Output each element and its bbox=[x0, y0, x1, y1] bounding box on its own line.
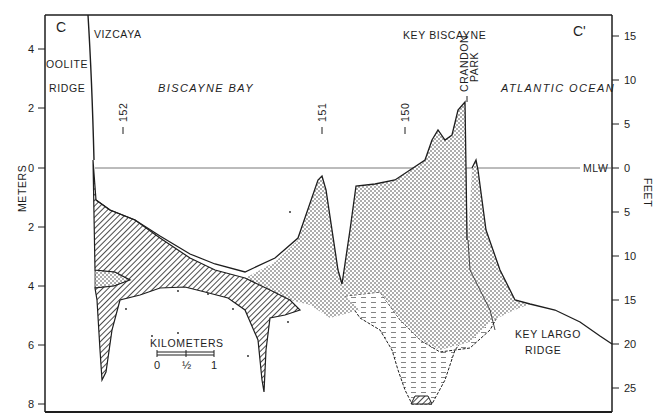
left-axis-meters: 4 2 0 2 4 6 8 METERS bbox=[16, 43, 45, 410]
feet-tick-label: 10 bbox=[624, 74, 636, 86]
right-axis-feet: 15 10 5 0 5 10 15 20 25 FEET bbox=[612, 30, 653, 394]
feet-tick-label: 5 bbox=[624, 118, 630, 130]
key-largo-ridge-label-line2: RIDGE bbox=[525, 344, 561, 356]
meters-tick-label: 2 bbox=[28, 221, 34, 233]
feet-tick-label: 10 bbox=[624, 250, 636, 262]
feet-tick-label: 15 bbox=[624, 30, 636, 42]
hatched-basal-patch bbox=[411, 396, 432, 404]
biscayne-bay-label: BISCAYNE BAY bbox=[158, 82, 254, 94]
station-marker-152: 152 bbox=[117, 103, 129, 134]
meters-tick-label: 6 bbox=[28, 339, 34, 351]
scale-bar: KILOMETERS 0 ½ 1 bbox=[150, 337, 224, 371]
oolite-ridge-label-line2: RIDGE bbox=[49, 82, 85, 94]
meters-axis-title: METERS bbox=[16, 165, 28, 212]
station-marker-151: 151 bbox=[316, 103, 328, 134]
key-largo-ridge-label-line1: KEY LARGO bbox=[515, 328, 581, 340]
meters-tick-label: 8 bbox=[28, 398, 34, 410]
feet-axis-title: FEET bbox=[642, 178, 653, 207]
scale-tick-half: ½ bbox=[182, 359, 191, 371]
cross-section-figure: 4 2 0 2 4 6 8 METERS 15 10 5 0 5 10 15 bbox=[0, 0, 653, 420]
svg-text:150: 150 bbox=[399, 103, 411, 122]
feet-tick-label: 0 bbox=[624, 162, 630, 174]
feet-tick-label: 5 bbox=[624, 206, 630, 218]
meters-tick-label: 4 bbox=[28, 280, 34, 292]
svg-text:151: 151 bbox=[316, 103, 328, 122]
meters-tick-label: 2 bbox=[28, 102, 34, 114]
meters-tick-label: 4 bbox=[28, 43, 34, 55]
oolite-ridge-label-line1: OOLITE bbox=[46, 58, 88, 70]
section-start-label: C bbox=[56, 19, 66, 35]
feet-tick-label: 15 bbox=[624, 294, 636, 306]
mlw-label: MLW bbox=[583, 162, 609, 174]
svg-text:152: 152 bbox=[117, 103, 129, 122]
scale-bar-title: KILOMETERS bbox=[150, 337, 224, 349]
feet-tick-label: 20 bbox=[624, 338, 636, 350]
key-biscayne-label: KEY BISCAYNE bbox=[403, 29, 486, 41]
crandon-park-label-line2: PARK bbox=[468, 52, 480, 82]
station-marker-150: 150 bbox=[399, 103, 411, 134]
atlantic-ocean-label: ATLANTIC OCEAN bbox=[500, 82, 615, 94]
feet-tick-label: 25 bbox=[624, 382, 636, 394]
meters-tick-label: 0 bbox=[28, 162, 34, 174]
section-end-label: C' bbox=[573, 23, 586, 39]
scale-tick-1: 1 bbox=[211, 359, 217, 371]
scale-tick-0: 0 bbox=[154, 359, 160, 371]
vizcaya-label: VIZCAYA bbox=[94, 28, 142, 40]
